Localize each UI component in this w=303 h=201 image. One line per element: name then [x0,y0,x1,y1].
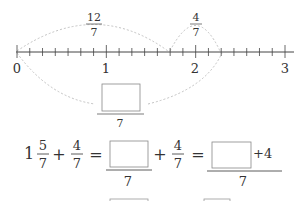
label-2: 2 [191,61,199,76]
answer-box-step2[interactable] [212,142,251,168]
answer-box-cutoff-1[interactable] [110,199,148,201]
answer-box-numberline[interactable] [102,84,140,111]
arc-fraction-numerator: 12 [87,11,101,24]
label-1: 1 [102,61,110,76]
eq-step1-den: 7 [124,174,132,189]
eq-equals2: = [191,145,204,164]
eq-plus1: + [52,145,65,164]
equation: 1 5 7 + 4 7 = 7 + 4 7 = +4 7 [24,138,282,189]
answer-box-cutoff-2[interactable] [204,199,230,201]
eq-step2-suffix: +4 [253,146,272,161]
eq-frac3-num: 4 [174,138,182,153]
label-0: 0 [13,61,21,76]
eq-frac2-den: 7 [73,156,81,171]
answer-box-step1[interactable] [110,141,148,167]
number-line [16,45,294,58]
arc-fraction-denominator: 7 [91,26,98,39]
eq-whole: 1 [24,144,34,163]
eq-frac1-num: 5 [39,138,47,153]
eq-frac1-den: 7 [39,156,47,171]
label-3: 3 [281,61,289,76]
eq-step2-den: 7 [239,174,247,189]
eq-frac3-den: 7 [174,156,182,171]
answer-box-denominator: 7 [117,117,124,130]
eq-equals1: = [89,145,102,164]
fraction-diagram: 0 1 2 3 12 7 4 7 7 1 5 7 + 4 7 = 7 + 4 7… [0,0,303,201]
eq-plus2: + [153,145,166,164]
arc-bottom-right [148,53,222,104]
arc-bottom-left [17,53,95,104]
eq-frac2-num: 4 [73,138,81,153]
arc2-fraction-denominator: 7 [193,26,200,39]
arc2-fraction-numerator: 4 [193,11,200,24]
